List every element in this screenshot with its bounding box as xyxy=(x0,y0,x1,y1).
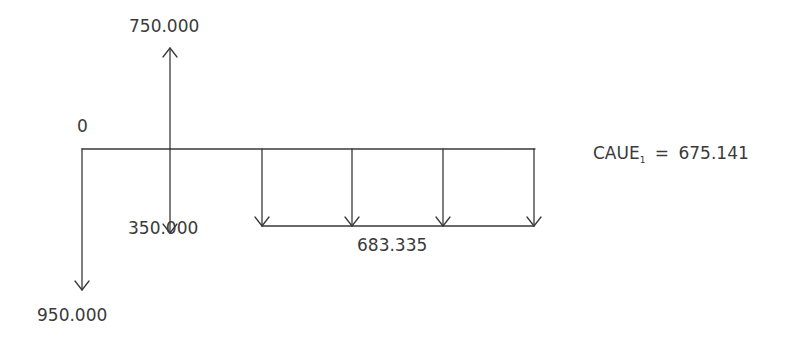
inflow-label: 750.000 xyxy=(129,16,199,36)
arrow-annuity-3 xyxy=(436,149,450,226)
caue-result: CAUE1 = 675.141 xyxy=(593,143,749,165)
arrow-annuity-1 xyxy=(255,149,269,226)
origin-label: 0 xyxy=(77,116,88,136)
initial-outflow-label: 950.000 xyxy=(37,305,107,325)
caue-name: CAUE xyxy=(593,143,640,163)
caue-value: 675.141 xyxy=(678,143,748,163)
cash-flow-diagram xyxy=(0,0,806,342)
caue-subscript: 1 xyxy=(640,155,646,165)
outflow-period1-label: 350.000 xyxy=(128,218,198,238)
arrow-inflow-up xyxy=(163,48,177,149)
annuity-label: 683.335 xyxy=(357,235,427,255)
arrow-initial-outflow xyxy=(75,149,89,290)
arrow-annuity-4 xyxy=(527,149,541,226)
arrow-annuity-2 xyxy=(345,149,359,226)
caue-equals: = xyxy=(655,143,669,163)
